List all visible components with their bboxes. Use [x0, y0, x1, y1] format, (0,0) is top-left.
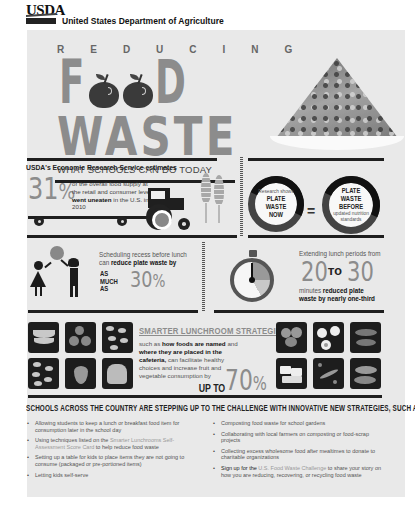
divider	[27, 235, 237, 238]
bananas-icon	[28, 322, 59, 353]
tofu-icon	[276, 358, 307, 389]
apple-icon	[123, 74, 153, 108]
apple-slices-icon	[28, 358, 59, 389]
as-much-as-label: ASMUCHAS	[100, 270, 118, 293]
wheel-icon	[34, 216, 44, 226]
stat-30-percent: 30%	[130, 268, 165, 293]
lunch-period-result: minutes reduced plate waste by nearly on…	[299, 287, 379, 302]
wheel-icon	[117, 216, 127, 226]
ers-heading: USDA's Economic Research Service estimat…	[26, 164, 177, 171]
list-item: Setting up a table for kids to place ite…	[26, 454, 198, 467]
divider	[27, 158, 217, 161]
list-item: Using techniques listed on the Smarter L…	[26, 437, 198, 450]
stat-70-percent: UP TO 70%	[192, 366, 279, 398]
usda-header: USDA United States Department of Agricul…	[26, 2, 326, 30]
title-reducing: REDUCING	[57, 44, 318, 55]
strategies-list-right: Composting food waste for school gardens…	[212, 420, 384, 482]
vertical-divider	[240, 157, 243, 237]
list-item: Collaborating with local farmers on comp…	[212, 431, 384, 444]
squash-icon	[350, 358, 381, 389]
plate-waste-before-ring: PLATE WASTE BEFORE updated nutrition sta…	[322, 176, 380, 234]
divider	[248, 158, 384, 161]
food-waste-challenge-link[interactable]: U.S. Food Waste Challenge	[258, 465, 326, 471]
broccoli-icon	[276, 322, 307, 353]
list-item: Composting food waste for school gardens	[212, 420, 384, 427]
equals-sign: =	[307, 203, 315, 219]
wheat-icon	[213, 173, 225, 223]
divider	[28, 310, 198, 313]
orange-slices-icon	[102, 322, 133, 353]
list-item: Allowing students to keep a lunch or bre…	[26, 420, 198, 433]
divider	[28, 395, 382, 398]
trailer-icon	[28, 216, 148, 219]
ers-description: of the overall food supply at the retail…	[72, 180, 152, 211]
bread-icon	[102, 358, 133, 389]
list-item: Sign up for the U.S. Food Waste Challeng…	[212, 465, 384, 478]
stat-31-percent: 31%	[28, 174, 75, 207]
girl-icon	[34, 261, 43, 270]
recess-description: Scheduling recess before lunch can reduc…	[99, 251, 194, 266]
plate-icon	[270, 136, 404, 150]
strategies-list-left: Allowing students to keep a lunch or bre…	[26, 420, 198, 482]
title-food: F D	[59, 56, 183, 108]
title-letter-f: F	[59, 56, 76, 108]
boy-icon	[68, 258, 79, 267]
food-pyramid-illustration	[270, 58, 404, 146]
strategies-title: SCHOOLS ACROSS THE COUNTRY ARE STEPPING …	[26, 403, 415, 413]
stat-20-to-30: 20 TO 30	[298, 258, 372, 286]
usda-logo-mark	[26, 18, 56, 24]
list-item: Collecting excess wholesome food after m…	[212, 448, 384, 461]
plate-waste-now-ring: Research shows PLATE WASTE NOW	[248, 176, 304, 232]
wheat-icon	[200, 173, 212, 223]
vertical-divider	[202, 242, 205, 312]
title-waste: WASTE	[57, 110, 238, 164]
eggs-icon	[313, 322, 344, 353]
strawberries-icon	[65, 322, 96, 353]
ball-icon	[50, 246, 64, 260]
divider	[248, 235, 384, 238]
apple-icon	[89, 74, 119, 108]
carrots-peas-icon	[313, 358, 344, 389]
smarter-lunchroom-title: SMARTER LUNCHROOM STRATEGIES,	[139, 326, 289, 336]
grapes-icon	[65, 358, 96, 389]
fish-icon	[350, 322, 381, 353]
list-item: Letting kids self-serve	[26, 472, 198, 479]
title-letter-d: D	[155, 56, 172, 108]
agency-name: United States Department of Agriculture	[62, 16, 224, 26]
divider	[214, 310, 384, 313]
